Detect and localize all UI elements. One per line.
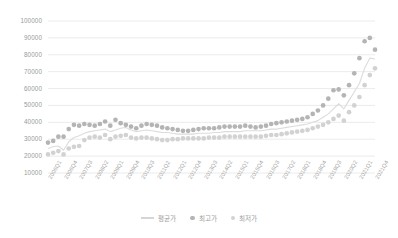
series-points-high (108, 123, 113, 128)
series-points-low (196, 136, 201, 141)
series-points-high (248, 124, 253, 129)
series-points-low (207, 135, 212, 140)
series-points-high (144, 122, 149, 127)
legend-item[interactable]: 최고가 (190, 213, 216, 223)
series-points-high (362, 39, 367, 44)
series-points-low (139, 135, 144, 140)
series-points-high (118, 121, 123, 126)
series-points-high (212, 126, 217, 131)
series-points-high (295, 117, 300, 122)
price-trend-chart: 1000020000300004000050000600007000080000… (0, 0, 398, 238)
series-points-high (113, 117, 118, 122)
series-points-high (253, 125, 258, 130)
series-points-low (144, 135, 149, 140)
series-points-low (321, 123, 326, 128)
series-points-low (274, 133, 279, 138)
series-points-low (124, 133, 129, 138)
y-axis-tick-label: 90000 (0, 34, 42, 41)
series-points-low (61, 152, 66, 157)
series-points-high (46, 140, 51, 145)
series-points-low (342, 118, 347, 123)
series-points-low (269, 133, 274, 138)
series-points-high (82, 122, 87, 127)
y-axis-tick-label: 40000 (0, 118, 42, 125)
series-points-low (336, 113, 341, 118)
series-points-high (134, 126, 139, 131)
series-points-low (290, 130, 295, 135)
series-points-low (56, 149, 61, 154)
series-points-low (310, 126, 315, 131)
series-points-high (92, 123, 97, 128)
series-points-high (72, 123, 77, 128)
series-points-low (357, 95, 362, 100)
series-points-high (160, 125, 165, 130)
series-points-low (238, 134, 243, 139)
legend-line-swatch-icon (141, 217, 154, 218)
series-points-high (264, 123, 269, 128)
y-axis-tick-label: 20000 (0, 152, 42, 159)
series-points-high (373, 47, 378, 52)
series-points-high (243, 123, 248, 128)
series-points-high (342, 93, 347, 98)
series-points-low (201, 136, 206, 141)
series-points-low (113, 134, 118, 139)
series-points-low (186, 136, 191, 141)
legend-label: 최저가 (239, 213, 257, 223)
series-points-high (233, 124, 238, 129)
series-points-low (175, 137, 180, 142)
series-points-high (331, 88, 336, 93)
series-points-high (217, 125, 222, 130)
series-points-high (310, 112, 315, 117)
series-points-low (165, 138, 170, 143)
series-points-low (87, 135, 92, 140)
y-axis-tick-label: 80000 (0, 51, 42, 58)
series-points-high (305, 115, 310, 120)
series-points-low (191, 136, 196, 141)
y-axis-tick-label: 70000 (0, 68, 42, 75)
series-points-low (295, 129, 300, 134)
series-points-high (155, 123, 160, 128)
series-points-high (56, 134, 61, 139)
series-points-low (248, 134, 253, 139)
series-points-low (118, 133, 123, 138)
series-points-low (134, 136, 139, 141)
series-points-high (207, 126, 212, 131)
series-points-low (227, 134, 232, 139)
series-points-high (290, 118, 295, 123)
series-points-low (181, 136, 186, 141)
y-axis-tick-label: 10000 (0, 169, 42, 176)
series-points-high (181, 128, 186, 133)
series-points-low (362, 83, 367, 88)
series-points-high (227, 124, 232, 129)
series-points-high (186, 128, 191, 133)
series-points-high (98, 122, 103, 127)
legend-dot-swatch-icon (190, 216, 194, 220)
chart-legend: 평균가최고가최저가 (0, 213, 398, 223)
series-points-low (264, 133, 269, 138)
series-points-high (139, 123, 144, 128)
series-points-low (326, 120, 331, 125)
series-points-high (316, 108, 321, 113)
series-points-high (321, 103, 326, 108)
series-points-low (243, 134, 248, 139)
series-points-high (269, 122, 274, 127)
series-points-high (222, 124, 227, 129)
series-points-high (367, 36, 372, 41)
series-points-high (284, 119, 289, 124)
series-points-high (175, 128, 180, 133)
series-points-high (352, 71, 357, 76)
legend-item[interactable]: 평균가 (141, 213, 176, 223)
legend-item[interactable]: 최저가 (231, 213, 257, 223)
series-points-low (253, 134, 258, 139)
series-points-high (87, 123, 92, 128)
series-points-low (92, 134, 97, 139)
series-points-high (357, 56, 362, 61)
series-points-low (352, 103, 357, 108)
series-points-high (196, 127, 201, 132)
series-points-high (300, 117, 305, 122)
y-axis-tick-label: 100000 (0, 17, 42, 24)
series-points-low (129, 135, 134, 140)
series-points-high (129, 124, 134, 129)
series-points-low (160, 138, 165, 143)
series-points-high (347, 83, 352, 88)
